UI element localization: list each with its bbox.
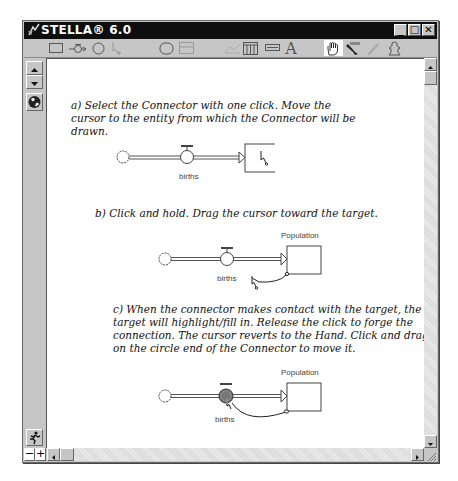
window-title: STELLA® 6.0 bbox=[41, 23, 131, 37]
left-tool-strip bbox=[24, 58, 45, 448]
triangle-left-icon bbox=[48, 452, 59, 463]
minimize-button[interactable]: _ bbox=[394, 24, 407, 36]
flow-valve-icon bbox=[221, 248, 234, 266]
connector-cursor-icon bbox=[252, 276, 259, 289]
horizontal-scrollbar[interactable] bbox=[47, 448, 424, 461]
maximize-button[interactable]: □ bbox=[408, 24, 421, 36]
step-a-line-1: a) Select the Connector with one click. … bbox=[71, 99, 411, 112]
hand-tool[interactable] bbox=[324, 40, 343, 56]
dynamite-tool[interactable] bbox=[365, 40, 382, 56]
runner-icon bbox=[27, 430, 42, 445]
rectangle-icon bbox=[49, 43, 63, 54]
flow-valve-icon bbox=[181, 146, 194, 164]
circle-icon bbox=[92, 42, 105, 55]
resize-grip[interactable] bbox=[424, 448, 437, 461]
cloud-source-icon bbox=[159, 390, 171, 402]
sector-frame-icon bbox=[179, 42, 194, 55]
globe-icon bbox=[27, 94, 42, 110]
step-c-line-4: on the circle end of the Connector to mo… bbox=[113, 342, 425, 355]
stella-logo-icon bbox=[27, 23, 41, 37]
step-b-diagram bbox=[157, 243, 327, 293]
layer-down-button[interactable] bbox=[26, 75, 43, 89]
flow-pipe-icon bbox=[69, 43, 87, 54]
cloud-source-icon bbox=[159, 253, 171, 265]
step-c-flow-label: births bbox=[215, 415, 235, 424]
connector-tool[interactable] bbox=[110, 40, 124, 56]
rounded-rect-icon bbox=[159, 42, 174, 55]
map-model-toggle[interactable] bbox=[26, 93, 43, 111]
close-button[interactable]: ✕ bbox=[422, 24, 435, 36]
ghost-icon bbox=[387, 41, 402, 56]
vertical-scroll-thumb[interactable] bbox=[424, 71, 437, 85]
layer-up-button[interactable] bbox=[26, 61, 43, 75]
paintbrush-icon bbox=[345, 41, 361, 56]
table-pad-tool[interactable] bbox=[242, 40, 258, 56]
step-b-line-1: b) Click and hold. Drag the cursor towar… bbox=[95, 207, 425, 220]
scroll-left-button[interactable] bbox=[47, 448, 60, 461]
graph-pad-tool[interactable] bbox=[223, 40, 241, 56]
scroll-up-button[interactable] bbox=[424, 58, 437, 71]
step-a-instructions: a) Select the Connector with one click. … bbox=[71, 99, 411, 138]
numeric-display-tool[interactable] bbox=[264, 40, 280, 56]
step-b-instructions: b) Click and hold. Drag the cursor towar… bbox=[95, 207, 425, 220]
step-a-flow-label: births bbox=[179, 172, 199, 181]
triangle-down-icon bbox=[27, 78, 42, 90]
zoom-in-button[interactable]: + bbox=[35, 448, 46, 461]
connector-arrow-icon bbox=[111, 41, 123, 55]
ghost-tool[interactable] bbox=[386, 40, 403, 56]
scroll-right-button[interactable] bbox=[411, 448, 424, 461]
stella-window: STELLA® 6.0 _ □ ✕ bbox=[22, 20, 439, 463]
decision-process-tool[interactable] bbox=[158, 40, 174, 56]
minimize-icon: _ bbox=[398, 24, 403, 35]
run-button[interactable] bbox=[26, 429, 43, 446]
step-a-line-3: drawn. bbox=[71, 125, 411, 138]
plus-icon: + bbox=[36, 447, 45, 460]
hand-icon bbox=[326, 41, 342, 56]
step-c-stock-label: Population bbox=[281, 368, 319, 377]
step-b-stock-label: Population bbox=[281, 231, 319, 240]
step-a-line-2: cursor to the entity from which the Conn… bbox=[71, 112, 411, 125]
text-a-icon: A bbox=[285, 39, 297, 58]
step-c-line-3: connection. The cursor reverts to the Ha… bbox=[113, 329, 425, 342]
scroll-down-button[interactable] bbox=[424, 435, 437, 448]
dynamite-icon bbox=[366, 41, 382, 56]
paintbrush-tool[interactable] bbox=[344, 40, 361, 56]
table-icon bbox=[243, 42, 258, 55]
close-icon: ✕ bbox=[424, 24, 432, 35]
model-canvas[interactable]: a) Select the Connector with one click. … bbox=[46, 58, 425, 449]
graph-icon bbox=[224, 42, 241, 54]
numeric-display-icon bbox=[265, 44, 280, 52]
flow-tool[interactable] bbox=[69, 40, 87, 56]
step-c-line-2: target will highlight/fill in. Release t… bbox=[113, 316, 425, 329]
sector-tool[interactable] bbox=[178, 40, 194, 56]
bottom-bar: − + bbox=[24, 448, 437, 461]
triangle-right-icon bbox=[412, 452, 423, 463]
title-bar[interactable]: STELLA® 6.0 _ □ ✕ bbox=[24, 22, 437, 39]
vertical-scrollbar[interactable] bbox=[424, 58, 437, 448]
stock-tool[interactable] bbox=[48, 40, 64, 56]
building-blocks-toolbar: A bbox=[24, 39, 437, 58]
step-c-diagram bbox=[157, 379, 327, 431]
step-b-flow-label: births bbox=[217, 274, 237, 283]
text-tool[interactable]: A bbox=[284, 40, 298, 56]
step-c-line-1: c) When the connector makes contact with… bbox=[113, 303, 425, 316]
maximize-icon: □ bbox=[410, 24, 419, 35]
resize-grip-icon bbox=[424, 449, 437, 462]
cloud-source-icon bbox=[117, 151, 129, 163]
converter-tool[interactable] bbox=[91, 40, 105, 56]
zoom-out-button[interactable]: − bbox=[24, 448, 35, 461]
minus-icon: − bbox=[25, 447, 34, 460]
step-c-instructions: c) When the connector makes contact with… bbox=[113, 303, 425, 355]
horizontal-scroll-thumb[interactable] bbox=[60, 448, 74, 461]
